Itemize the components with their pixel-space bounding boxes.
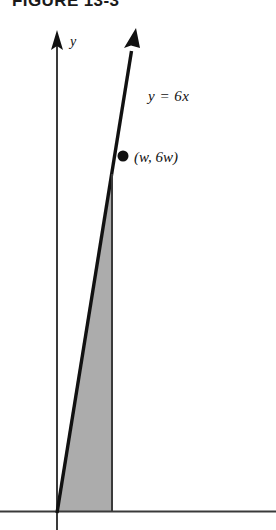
point-marker bbox=[118, 151, 129, 162]
line-equation-label: y = 6x bbox=[146, 88, 189, 104]
figure-container: FIGURE 13-3 y y = 6x (w, 6w) bbox=[0, 0, 276, 530]
point-coordinate-label: (w, 6w) bbox=[134, 149, 178, 166]
plot-area: y y = 6x (w, 6w) bbox=[0, 0, 276, 530]
y-axis-label: y bbox=[68, 34, 77, 49]
line-arrowhead bbox=[124, 28, 140, 48]
